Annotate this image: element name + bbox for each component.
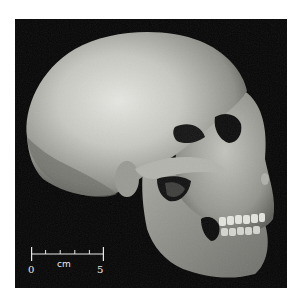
- scale-bar: 0 cm 5: [31, 244, 111, 284]
- scale-start-label: 0: [28, 265, 34, 275]
- scale-unit-label: cm: [57, 260, 71, 269]
- scale-bar-ruler: [31, 244, 111, 264]
- skull-photograph: 0 cm 5: [15, 19, 287, 288]
- scale-end-label: 5: [97, 265, 103, 275]
